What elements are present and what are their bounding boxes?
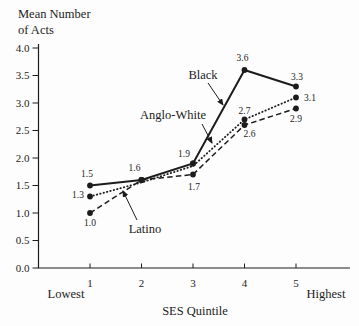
series-marker-latino	[87, 210, 93, 216]
series-annotation-label-latino: Latino	[129, 222, 162, 236]
y-tick-label: 2.0	[16, 152, 30, 164]
point-value-label: 3.6	[237, 53, 249, 63]
y-tick-label: 1.5	[16, 179, 30, 191]
point-value-label: 3.1	[304, 93, 316, 103]
series-marker-latino	[190, 172, 196, 178]
series-marker-anglo-white	[190, 161, 196, 167]
x-tick-label: 4	[242, 277, 248, 289]
x-tick-label: 3	[190, 277, 196, 289]
y-tick-label: 1.0	[16, 207, 30, 219]
chart-title: Mean Number of Acts	[18, 6, 91, 38]
series-marker-black	[293, 84, 299, 90]
point-value-label: 2.7	[239, 106, 251, 116]
series-marker-latino	[139, 177, 145, 183]
y-tick-label: 3.0	[16, 97, 30, 109]
series-marker-black	[242, 67, 248, 73]
x-axis-end-label-highest: Highest	[296, 287, 356, 302]
series-marker-latino	[242, 122, 248, 128]
point-value-label: 1.5	[81, 169, 93, 179]
series-annotation-label-black: Black	[188, 68, 218, 82]
series-annotation-label-anglo-white: Anglo-White	[140, 108, 206, 122]
series-marker-latino	[293, 106, 299, 112]
point-value-label: 1.9	[178, 149, 190, 159]
y-tick-label: 0.5	[16, 234, 30, 246]
point-value-label: 2.6	[244, 129, 256, 139]
chart-title-line-1: Mean Number	[18, 6, 91, 22]
point-value-label: 2.9	[290, 114, 302, 124]
delinquency-ses-chart-figure: 0.00.51.01.52.02.53.03.54.0123451.51.31.…	[0, 0, 359, 326]
y-tick-label: 4.0	[16, 42, 30, 54]
point-value-label: 3.3	[291, 72, 303, 82]
series-marker-anglo-white	[242, 117, 248, 123]
series-marker-anglo-white	[87, 194, 93, 200]
chart-title-line-2: of Acts	[18, 22, 91, 38]
point-value-label: 1.7	[188, 182, 200, 192]
y-tick-label: 2.5	[16, 124, 30, 136]
chart-svg: 0.00.51.01.52.02.53.03.54.0123451.51.31.…	[0, 0, 359, 326]
y-tick-label: 0.0	[16, 262, 30, 274]
x-axis-title: SES Quintile	[135, 304, 255, 319]
series-marker-black	[87, 183, 93, 189]
point-value-label: 1.3	[72, 190, 84, 200]
y-tick-label: 3.5	[16, 69, 30, 81]
chart-background	[0, 0, 359, 326]
series-marker-anglo-white	[293, 95, 299, 101]
point-value-label: 1.6	[129, 163, 141, 173]
x-axis-end-label-lowest: Lowest	[36, 287, 96, 302]
chart-root: 0.00.51.01.52.02.53.03.54.0123451.51.31.…	[0, 0, 359, 326]
x-tick-label: 2	[139, 277, 145, 289]
point-value-label: 1.0	[84, 218, 96, 228]
